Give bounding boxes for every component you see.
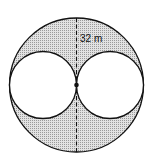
center-point [74, 83, 79, 88]
left-inner-circle [10, 52, 77, 119]
circle-diagram: 32 m [0, 0, 150, 156]
dimension-label: 32 m [80, 33, 102, 44]
right-inner-circle [77, 52, 144, 119]
